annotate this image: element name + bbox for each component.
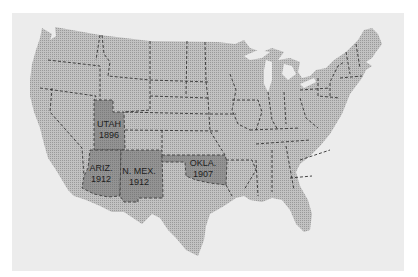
label-new-mexico-name: N. MEX. [122,166,156,176]
label-utah-name: UTAH [97,119,121,129]
label-utah-year: 1896 [99,130,119,140]
label-arizona-year: 1912 [91,174,111,184]
us-landmass [30,27,382,256]
label-new-mexico-year: 1912 [129,177,149,187]
label-oklahoma-year: 1907 [193,169,213,179]
state-new-mexico[interactable] [120,150,163,202]
us-map: UTAH 1896 ARIZ. 1912 N. MEX. 1912 OKLA. … [0,0,418,277]
label-oklahoma-name: OKLA. [190,158,217,168]
label-arizona-name: ARIZ. [89,163,112,173]
